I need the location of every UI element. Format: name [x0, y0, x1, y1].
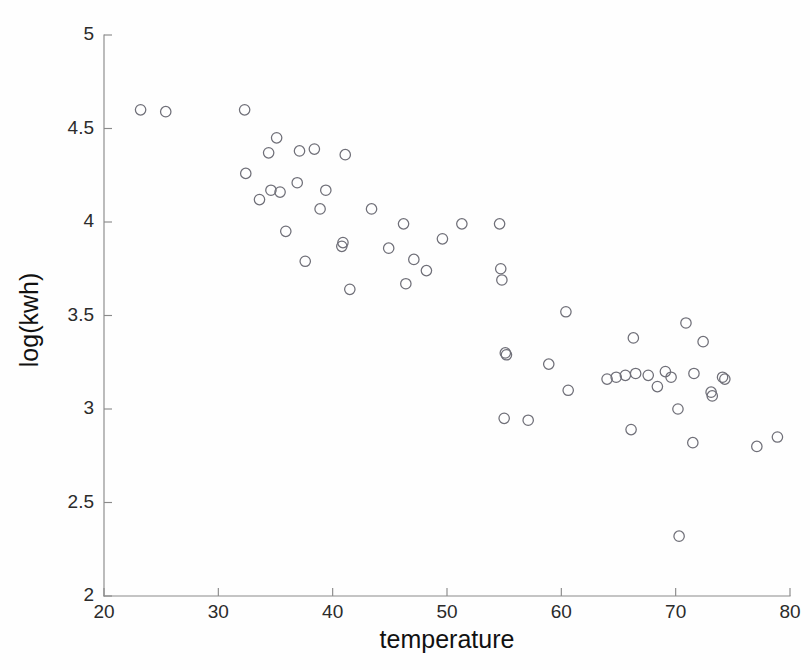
data-point	[628, 333, 638, 343]
data-point	[674, 531, 684, 541]
data-point	[321, 185, 331, 195]
x-tick-label: 50	[436, 601, 457, 622]
data-point	[294, 146, 304, 156]
y-tick-label: 2.5	[68, 491, 94, 512]
y-tick-label: 5	[83, 23, 94, 44]
x-axis-ticks: 20304050607080	[93, 588, 800, 622]
y-tick-label: 4	[83, 210, 94, 231]
x-tick-label: 60	[551, 601, 572, 622]
data-point	[494, 219, 504, 229]
data-point	[630, 368, 640, 378]
data-point	[652, 381, 662, 391]
data-point	[688, 437, 698, 447]
data-point	[497, 275, 507, 285]
data-point	[401, 279, 411, 289]
data-point	[563, 385, 573, 395]
data-point	[135, 105, 145, 115]
axes-group	[104, 35, 790, 596]
data-point	[263, 148, 273, 158]
data-point	[689, 368, 699, 378]
data-point	[383, 243, 393, 253]
data-point	[643, 370, 653, 380]
data-point	[254, 194, 264, 204]
data-point	[292, 178, 302, 188]
data-point	[315, 204, 325, 214]
data-point	[421, 265, 431, 275]
data-point	[752, 441, 762, 451]
data-point	[561, 307, 571, 317]
data-point	[673, 404, 683, 414]
x-tick-label: 20	[93, 601, 114, 622]
data-point	[239, 105, 249, 115]
x-tick-label: 40	[322, 601, 343, 622]
data-point	[345, 284, 355, 294]
data-point	[300, 256, 310, 266]
data-point	[666, 372, 676, 382]
data-point	[398, 219, 408, 229]
scatter-plot-figure: 22.533.544.55 20304050607080 temperature…	[0, 0, 810, 670]
data-point	[271, 133, 281, 143]
data-point	[457, 219, 467, 229]
y-axis-title: log(kwh)	[15, 273, 43, 367]
y-tick-label: 2	[83, 584, 94, 605]
data-point	[161, 106, 171, 116]
data-point	[698, 336, 708, 346]
data-point	[681, 318, 691, 328]
data-point	[409, 254, 419, 264]
y-tick-label: 4.5	[68, 117, 94, 138]
x-tick-label: 30	[208, 601, 229, 622]
y-tick-label: 3	[83, 397, 94, 418]
x-tick-label: 80	[779, 601, 800, 622]
data-point	[523, 415, 533, 425]
data-point	[338, 237, 348, 247]
data-point	[366, 204, 376, 214]
data-point	[544, 359, 554, 369]
x-axis-title: temperature	[380, 625, 515, 653]
data-point	[772, 432, 782, 442]
data-point	[340, 149, 350, 159]
data-point	[309, 144, 319, 154]
x-tick-label: 70	[665, 601, 686, 622]
data-points-layer	[135, 105, 782, 542]
data-point	[626, 424, 636, 434]
data-point	[281, 226, 291, 236]
data-point	[720, 374, 730, 384]
data-point	[660, 366, 670, 376]
y-tick-label: 3.5	[68, 304, 94, 325]
data-point	[499, 413, 509, 423]
data-point	[707, 391, 717, 401]
data-point	[241, 168, 251, 178]
data-point	[437, 234, 447, 244]
data-point	[496, 264, 506, 274]
y-axis-ticks: 22.533.544.55	[68, 23, 112, 605]
plot-canvas: 22.533.544.55 20304050607080 temperature…	[0, 0, 810, 670]
